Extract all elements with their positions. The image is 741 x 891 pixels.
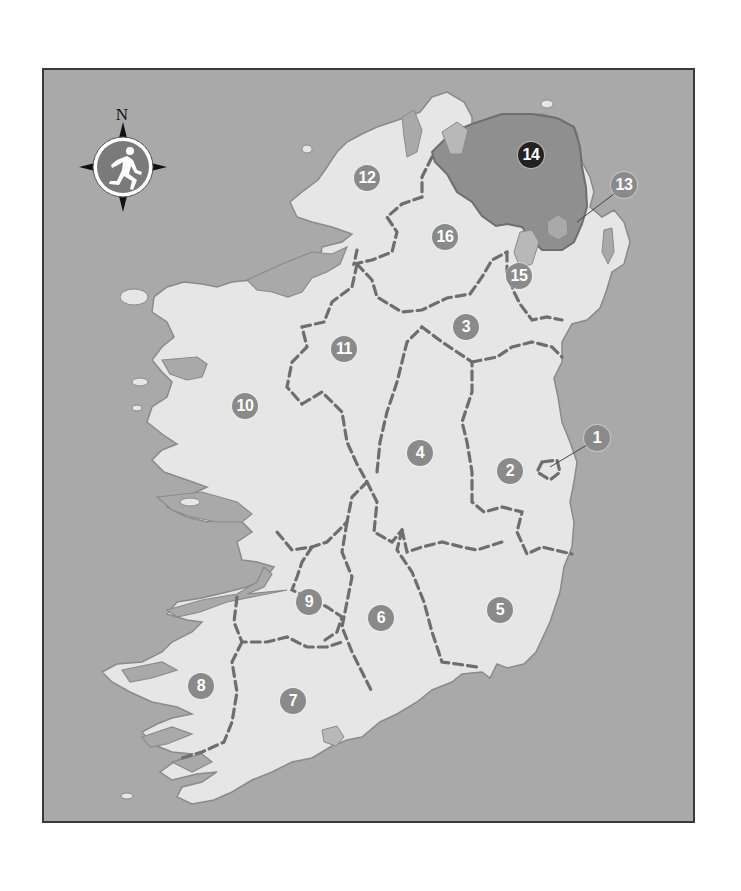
island — [121, 793, 133, 799]
island — [180, 498, 200, 506]
map-frame: N 1 2 3 4 5 6 7 8 9 10 11 12 13 14 15 16 — [42, 68, 695, 823]
region-badge-9[interactable]: 9 — [296, 589, 322, 615]
compass-north-label: N — [112, 105, 132, 125]
region-badge-1[interactable]: 1 — [584, 425, 610, 451]
region-badge-6[interactable]: 6 — [368, 605, 394, 631]
region-badge-13[interactable]: 13 — [611, 172, 637, 198]
region-badge-11[interactable]: 11 — [331, 336, 357, 362]
region-badge-3[interactable]: 3 — [453, 314, 479, 340]
island — [120, 289, 148, 305]
region-badge-14[interactable]: 14 — [518, 142, 544, 168]
island — [132, 405, 142, 411]
compass-rose — [79, 120, 167, 214]
region-badge-10[interactable]: 10 — [232, 393, 258, 419]
island — [541, 100, 553, 108]
island — [302, 145, 312, 153]
region-badge-2[interactable]: 2 — [497, 458, 523, 484]
region-badge-12[interactable]: 12 — [354, 165, 380, 191]
island — [132, 378, 148, 386]
region-badge-4[interactable]: 4 — [407, 440, 433, 466]
region-badge-5[interactable]: 5 — [487, 597, 513, 623]
region-badge-8[interactable]: 8 — [188, 673, 214, 699]
region-badge-16[interactable]: 16 — [432, 224, 458, 250]
region-badge-15[interactable]: 15 — [506, 263, 532, 289]
region-badge-7[interactable]: 7 — [280, 688, 306, 714]
